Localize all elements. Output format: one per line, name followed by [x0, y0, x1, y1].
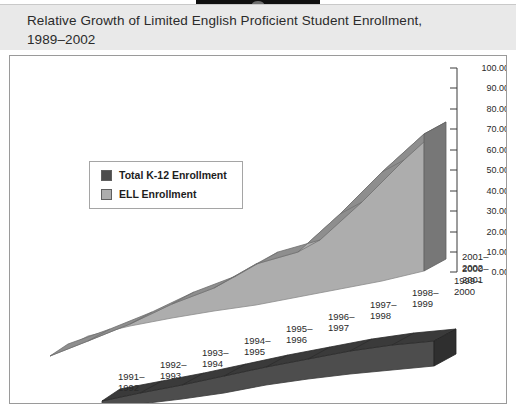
y-axis [450, 68, 457, 272]
y-tick-label: 70.00% [465, 124, 507, 134]
header-band: Relative Growth of Limited English Profi… [0, 4, 516, 50]
legend-item-ell: ELL Enrollment [101, 188, 196, 200]
x-tick-label: 1995– 1996 [286, 323, 312, 345]
x-tick-label: 1996– 1997 [328, 311, 354, 333]
x-tick-label: 2001– 2002 [462, 251, 488, 273]
y-tick-label: 50.00% [465, 165, 507, 175]
y-tick-label: 20.00% [465, 227, 507, 237]
page-title: Relative Growth of Limited English Profi… [27, 11, 497, 49]
x-tick-label: 1992– 1993 [160, 359, 186, 381]
y-tick-label: 60.00% [465, 145, 507, 155]
legend-swatch-total-k12 [101, 170, 112, 181]
x-tick-label: 1998– 1999 [412, 287, 438, 309]
legend-label-ell: ELL Enrollment [119, 188, 196, 200]
x-tick-label: 1991– 1992 [118, 371, 144, 393]
legend-swatch-ell [101, 189, 112, 200]
chart-panel: Total K-12 Enrollment ELL Enrollment 100… [9, 55, 507, 404]
x-tick-label: 1994– 1995 [244, 335, 270, 357]
y-tick-label: 100.00% [465, 63, 507, 73]
x-tick-label: 1997– 1998 [370, 299, 396, 321]
y-tick-label: 90.00% [465, 83, 507, 93]
ell-ribbon-right-cap [424, 122, 446, 271]
y-tick-label: 80.00% [465, 104, 507, 114]
legend-item-total-k12: Total K-12 Enrollment [101, 169, 227, 181]
x-tick-label: 1993– 1994 [202, 347, 228, 369]
y-tick-label: 40.00% [465, 186, 507, 196]
y-tick-label: 30.00% [465, 206, 507, 216]
chart-legend: Total K-12 Enrollment ELL Enrollment [89, 161, 243, 209]
legend-label-total-k12: Total K-12 Enrollment [119, 169, 227, 181]
